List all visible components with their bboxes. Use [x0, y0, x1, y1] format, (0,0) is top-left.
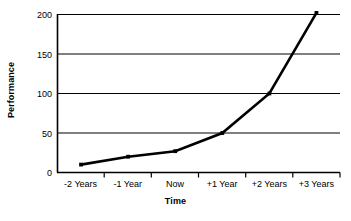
data-point-marker — [267, 92, 271, 96]
y-tick-label-50: 50 — [42, 129, 52, 139]
data-point-marker — [79, 163, 83, 167]
data-point-marker — [315, 11, 319, 15]
gridlines — [57, 15, 340, 134]
y-tick-label-150: 150 — [37, 50, 52, 60]
x-axis-title-label: Time — [165, 196, 187, 206]
data-point-marker — [126, 155, 130, 159]
performance-series-line — [81, 13, 316, 165]
data-point-marker — [220, 131, 224, 135]
x-tick-label-plus-1-year: +1 Year — [207, 179, 238, 189]
performance-over-time-line-chart: Performance 200 150 100 50 0 — [0, 0, 351, 221]
x-tick-label-plus-3-years: +3 Years — [299, 179, 335, 189]
y-tick-label-100: 100 — [37, 89, 52, 99]
y-tick-label-200: 200 — [37, 10, 52, 20]
x-tick-label-minus-1-year: -1 Year — [114, 179, 143, 189]
x-tick-label-minus-2-years: -2 Years — [64, 179, 98, 189]
y-tick-labels: 200 150 100 50 0 — [37, 10, 52, 178]
x-tick-label-now: Now — [166, 179, 185, 189]
data-point-marker — [173, 149, 177, 153]
plot-area: 200 150 100 50 0 -2 Years -1 Year Now +1… — [0, 0, 351, 221]
x-tick-labels: -2 Years -1 Year Now +1 Year +2 Years +3… — [64, 179, 334, 189]
x-axis-title: Time — [0, 196, 351, 206]
y-tick-label-0: 0 — [47, 168, 52, 178]
x-tick-label-plus-2-years: +2 Years — [252, 179, 288, 189]
